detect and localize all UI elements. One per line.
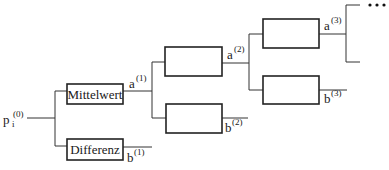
label-a2-sup: (2) (234, 44, 245, 54)
input-base: p (3, 112, 10, 127)
input-subscript: i (12, 119, 15, 129)
level3-top-box (263, 19, 319, 48)
label-a1: a (129, 76, 135, 91)
label-b2: b (225, 120, 232, 135)
ellipsis-icon (368, 3, 385, 6)
level2-bottom-box (166, 104, 222, 133)
level3-bottom-box (263, 76, 319, 104)
input-label: p i (0) (3, 109, 24, 129)
label-a1-sup: (1) (136, 73, 147, 83)
label-b1-sup: (1) (134, 147, 145, 157)
label-a3: a (324, 18, 330, 33)
label-b2-sup: (2) (232, 117, 243, 127)
input-superscript: (0) (13, 109, 24, 119)
filter-boxes: Mittelwert Differenz (67, 19, 319, 160)
label-b3-sup: (3) (331, 88, 342, 98)
label-a3-sup: (3) (331, 15, 342, 25)
level2-top-box (165, 47, 222, 76)
label-a2: a (227, 47, 233, 62)
label-b1: b (127, 150, 134, 165)
mittelwert-label: Mittelwert (68, 87, 123, 102)
label-b3: b (324, 91, 331, 106)
differenz-label: Differenz (70, 142, 120, 157)
filter-tree-diagram: Mittelwert Differenz p i (0) a (1) b (1)… (0, 0, 389, 170)
